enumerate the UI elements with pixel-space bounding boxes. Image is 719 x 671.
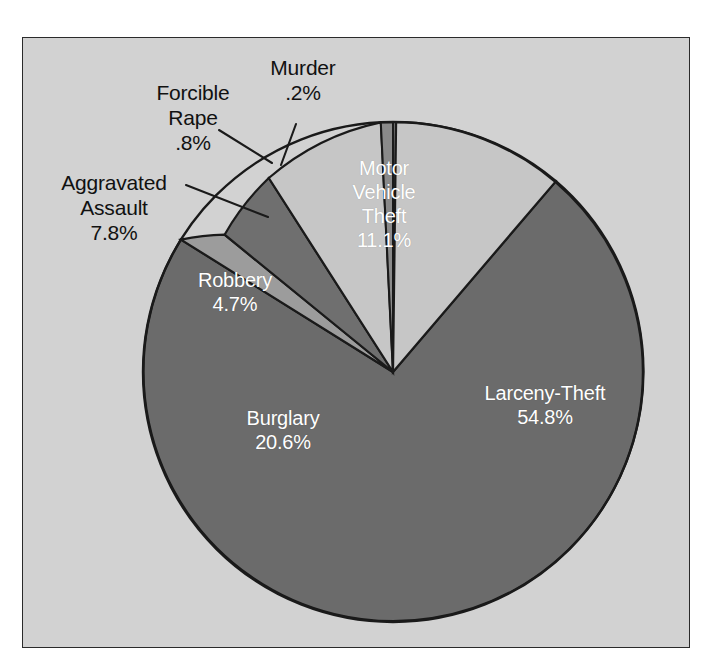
chart-stage: Murder .2% Forcible Rape .8% Aggravated … <box>0 0 719 671</box>
pie-label-aggravated-assault: Aggravated Assault 7.8% <box>24 170 204 245</box>
pie-label-motor-vehicle-theft: Motor Vehicle Theft 11.1% <box>330 156 438 252</box>
pie-label-forcible-rape: Forcible Rape .8% <box>134 80 252 155</box>
pie-label-larceny-theft: Larceny-Theft 54.8% <box>450 381 640 429</box>
pie-label-robbery: Robbery 4.7% <box>170 268 300 316</box>
pie-label-burglary: Burglary 20.6% <box>213 406 353 454</box>
pie-label-murder: Murder .2% <box>243 55 363 105</box>
